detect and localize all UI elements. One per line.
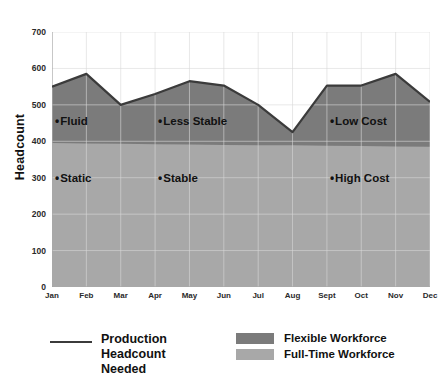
x-axis-tick-label: Jul [252, 291, 264, 300]
x-axis-tick-label: Jan [45, 291, 59, 300]
x-axis-tick-label: Mar [114, 291, 128, 300]
x-axis-tick-label: May [182, 291, 198, 300]
annotation-bullet-icon: • [158, 114, 162, 128]
y-axis-tick-label: 300 [32, 173, 46, 183]
annotation-bullet-icon: • [158, 171, 162, 185]
y-axis-tick-label: 700 [32, 27, 46, 37]
annotation-label: High Cost [335, 172, 389, 184]
chart-root: Headcount 0100200300400500600700JanFebMa… [0, 0, 444, 382]
x-axis-tick-label: Apr [148, 291, 162, 300]
chart-annotation: •Less Stable [158, 114, 227, 128]
annotation-bullet-icon: • [55, 114, 59, 128]
legend-line-label: Production Headcount Needed [101, 332, 167, 377]
y-axis-tick-label: 100 [32, 246, 46, 256]
x-axis-tick-label: Sept [318, 291, 335, 300]
legend-label-fulltime: Full-Time Workforce [284, 348, 395, 360]
annotation-label: Stable [163, 172, 198, 184]
x-axis-tick-label: Oct [355, 291, 368, 300]
y-axis-tick-label: 200 [32, 209, 46, 219]
y-axis-tick-label: 500 [32, 100, 46, 110]
annotation-bullet-icon: • [330, 171, 334, 185]
legend-line-swatch-icon [50, 341, 92, 343]
legend-color-swatch-fulltime [236, 349, 274, 360]
chart-annotation: •Fluid [55, 114, 88, 128]
y-axis-tick-label: 400 [32, 136, 46, 146]
chart-annotation: •High Cost [330, 171, 390, 185]
y-axis-title: Headcount [13, 102, 27, 192]
legend-entry-production-line: Production Headcount Needed [50, 332, 167, 377]
annotation-label: Fluid [60, 115, 87, 127]
y-axis-tick-label: 600 [32, 63, 46, 73]
x-axis-tick-label: Jun [217, 291, 231, 300]
annotation-label: Static [60, 172, 91, 184]
x-axis-tick-label: Feb [79, 291, 93, 300]
chart-annotation: •Low Cost [330, 114, 387, 128]
legend-line-label-line3: Needed [101, 362, 167, 377]
legend-color-swatch-flexible [236, 333, 274, 344]
x-axis-tick-label: Nov [388, 291, 403, 300]
legend-line-label-line1: Production [101, 332, 167, 347]
annotation-bullet-icon: • [55, 171, 59, 185]
legend-line-label-line2: Headcount [101, 347, 167, 362]
legend-area-entries: Flexible Workforce Full-Time Workforce [236, 332, 395, 364]
annotation-bullet-icon: • [330, 114, 334, 128]
legend-entry-fulltime-workforce: Full-Time Workforce [236, 348, 395, 360]
x-axis-tick-label: Dec [423, 291, 438, 300]
annotation-label: Less Stable [163, 115, 227, 127]
chart-legend: Production Headcount Needed Flexible Wor… [0, 326, 444, 382]
legend-entry-flexible-workforce: Flexible Workforce [236, 332, 395, 344]
legend-label-flexible: Flexible Workforce [284, 332, 387, 344]
x-axis-tick-label: Aug [285, 291, 301, 300]
plot-area: 0100200300400500600700JanFebMarAprMayJun… [52, 32, 430, 287]
annotation-label: Low Cost [335, 115, 387, 127]
chart-annotation: •Static [55, 171, 92, 185]
chart-annotation: •Stable [158, 171, 198, 185]
chart-canvas [52, 32, 430, 287]
